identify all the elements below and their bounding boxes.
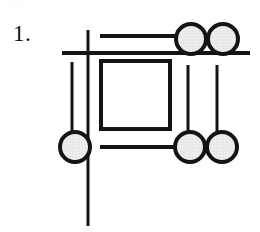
circle-bottom-right-outer — [207, 132, 237, 162]
circle-top-right-outer — [208, 24, 238, 54]
figure-container: rrrrr 1. — [0, 0, 260, 232]
circle-bottom-right-inner — [175, 132, 205, 162]
puzzle-figure-drawing — [0, 0, 260, 232]
circle-top-right-inner — [176, 24, 206, 54]
circle-bottom-left — [60, 132, 90, 162]
center-square — [101, 61, 170, 129]
